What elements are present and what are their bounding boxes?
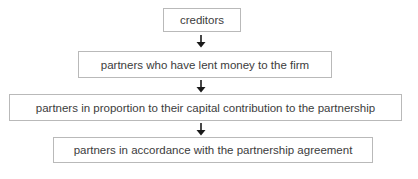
node-label: creditors: [180, 14, 224, 26]
node-partners-lent-money: partners who have lent money to the firm: [78, 51, 332, 78]
arrow-down-icon: [196, 35, 206, 48]
arrow-down-icon: [196, 123, 206, 136]
node-label: partners in accordance with the partners…: [74, 144, 353, 156]
node-partners-capital-contribution: partners in proportion to their capital …: [9, 94, 402, 121]
node-partners-partnership-agreement: partners in accordance with the partners…: [53, 137, 373, 163]
node-label: partners in proportion to their capital …: [36, 102, 375, 114]
node-creditors: creditors: [163, 8, 241, 32]
node-label: partners who have lent money to the firm: [101, 59, 309, 71]
arrow-down-icon: [196, 80, 206, 93]
